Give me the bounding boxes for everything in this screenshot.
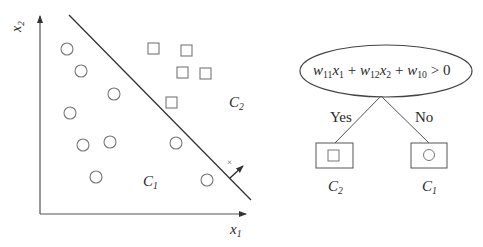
right-leaf-box xyxy=(411,143,447,168)
normal-marker: × xyxy=(227,158,232,167)
circle-point xyxy=(75,65,87,77)
condition-text: w11x1 + w12x2 + w10 > 0 xyxy=(313,63,450,80)
circle-point xyxy=(77,139,89,151)
decision-boundary-line xyxy=(69,15,251,200)
region-c2-label: C2 xyxy=(229,95,244,112)
square-point xyxy=(166,97,177,108)
right-leaf-class-label: C1 xyxy=(422,179,437,196)
region-c1-label: C1 xyxy=(143,174,158,191)
class-c2-points xyxy=(148,43,211,108)
normal-vector-arrow xyxy=(230,166,243,178)
right-leaf-circle-icon xyxy=(424,150,435,161)
left-leaf-box xyxy=(316,143,353,168)
left-leaf-class-label: C2 xyxy=(328,179,343,196)
x-axis-label: x1 xyxy=(230,222,242,239)
left-leaf-square-icon xyxy=(328,150,339,161)
y-axis-label: x2 xyxy=(10,21,26,32)
circle-point xyxy=(61,43,73,55)
circle-point xyxy=(64,107,76,119)
square-point xyxy=(181,45,192,56)
square-point xyxy=(148,43,159,54)
no-label: No xyxy=(415,110,433,125)
diagram-canvas xyxy=(0,0,483,247)
square-point xyxy=(177,67,188,78)
circle-point xyxy=(108,88,120,100)
class-c1-points xyxy=(61,43,213,186)
yes-label: Yes xyxy=(330,110,352,125)
circle-point xyxy=(170,137,182,149)
circle-point xyxy=(90,171,102,183)
circle-point xyxy=(201,174,213,186)
circle-point xyxy=(104,136,116,148)
square-point xyxy=(200,68,211,79)
